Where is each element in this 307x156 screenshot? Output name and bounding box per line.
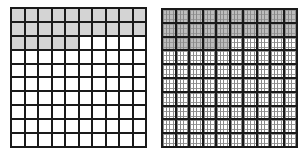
unshaded-cell <box>177 120 189 132</box>
unshaded-cell <box>107 37 119 49</box>
unshaded-cell <box>93 120 105 132</box>
unshaded-cell <box>80 134 92 146</box>
unshaded-cell <box>258 107 270 119</box>
unshaded-cell <box>244 120 256 132</box>
unshaded-cell <box>134 65 146 77</box>
shaded-cell <box>39 23 51 35</box>
unshaded-cell <box>80 37 92 49</box>
shaded-cell <box>190 24 202 36</box>
unshaded-cell <box>177 107 189 119</box>
unshaded-cell <box>12 92 24 104</box>
shaded-cell <box>66 37 78 49</box>
unshaded-cell <box>93 78 105 90</box>
shaded-cell <box>107 9 119 21</box>
shaded-cell <box>271 24 283 36</box>
shaded-cell <box>80 23 92 35</box>
unshaded-cell <box>66 106 78 118</box>
unshaded-cell <box>217 134 229 146</box>
unshaded-cell <box>285 51 297 63</box>
unshaded-cell <box>80 92 92 104</box>
shaded-cell <box>177 10 189 22</box>
unshaded-cell <box>258 38 270 50</box>
thousandths-grid <box>161 8 298 148</box>
unshaded-cell <box>285 134 297 146</box>
shaded-cell <box>177 24 189 36</box>
unshaded-cell <box>53 65 65 77</box>
unshaded-cell <box>120 92 132 104</box>
unshaded-cell <box>258 134 270 146</box>
unshaded-cell <box>204 120 216 132</box>
unshaded-cell <box>231 65 243 77</box>
unshaded-cell <box>120 65 132 77</box>
shaded-cell <box>258 10 270 22</box>
unshaded-cell <box>163 65 175 77</box>
unshaded-cell <box>190 134 202 146</box>
unshaded-cell <box>244 51 256 63</box>
shaded-cell <box>217 10 229 22</box>
shaded-cell <box>217 24 229 36</box>
unshaded-cell <box>134 92 146 104</box>
unshaded-cell <box>12 134 24 146</box>
unshaded-cell <box>271 51 283 63</box>
unshaded-cell <box>107 51 119 63</box>
unshaded-cell <box>190 93 202 105</box>
shaded-cell <box>53 9 65 21</box>
unshaded-cell <box>163 120 175 132</box>
unshaded-cell <box>80 120 92 132</box>
shaded-cell <box>80 9 92 21</box>
unshaded-cell <box>285 107 297 119</box>
unshaded-cell <box>258 79 270 91</box>
unshaded-cell <box>244 93 256 105</box>
unshaded-cell <box>107 92 119 104</box>
unshaded-cell <box>190 120 202 132</box>
unshaded-cell <box>12 120 24 132</box>
unshaded-cell <box>53 51 65 63</box>
shaded-cell <box>163 10 175 22</box>
shaded-cell <box>163 24 175 36</box>
unshaded-cell <box>93 134 105 146</box>
unshaded-cell <box>244 134 256 146</box>
unshaded-cell <box>163 107 175 119</box>
unshaded-cell <box>66 120 78 132</box>
shaded-cell <box>53 23 65 35</box>
unshaded-cell <box>217 120 229 132</box>
unshaded-cell <box>163 51 175 63</box>
unshaded-cell <box>244 107 256 119</box>
unshaded-cell <box>217 65 229 77</box>
unshaded-cell <box>134 37 146 49</box>
unshaded-cell <box>285 79 297 91</box>
unshaded-cell <box>217 51 229 63</box>
unshaded-cell <box>66 134 78 146</box>
unshaded-cell <box>190 51 202 63</box>
shaded-cell <box>66 23 78 35</box>
unshaded-cell <box>231 79 243 91</box>
unshaded-cell <box>53 78 65 90</box>
shaded-cell <box>12 37 24 49</box>
shaded-cell <box>26 23 38 35</box>
unshaded-cell <box>177 65 189 77</box>
unshaded-cell <box>12 51 24 63</box>
shaded-cell <box>177 38 189 50</box>
shaded-cell <box>244 10 256 22</box>
unshaded-cell <box>231 120 243 132</box>
unshaded-cell <box>217 93 229 105</box>
unshaded-cell <box>271 65 283 77</box>
hundredths-grid <box>10 7 147 148</box>
unshaded-cell <box>244 79 256 91</box>
unshaded-cell <box>258 120 270 132</box>
unshaded-cell <box>285 93 297 105</box>
unshaded-cell <box>93 37 105 49</box>
unshaded-cell <box>271 120 283 132</box>
unshaded-cell <box>204 79 216 91</box>
unshaded-cell <box>80 51 92 63</box>
shaded-cell <box>39 9 51 21</box>
unshaded-cell <box>39 51 51 63</box>
shaded-cell <box>107 23 119 35</box>
unshaded-cell <box>26 106 38 118</box>
unshaded-cell <box>271 93 283 105</box>
unshaded-cell <box>26 92 38 104</box>
unshaded-cell <box>107 78 119 90</box>
unshaded-cell <box>53 106 65 118</box>
unshaded-cell <box>271 107 283 119</box>
shaded-cell <box>285 10 297 22</box>
